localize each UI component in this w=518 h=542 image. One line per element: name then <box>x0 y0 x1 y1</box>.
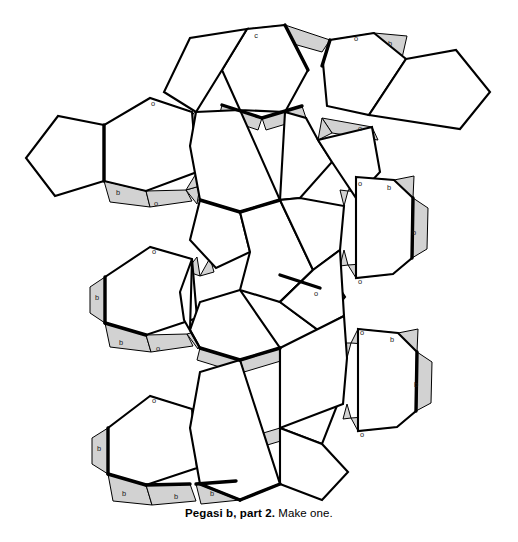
papercraft-net-diagram: c o b o o b o o b b o o b b o o b b o o … <box>0 0 518 515</box>
tab-label-right-low-b2: b <box>414 380 418 389</box>
tab-label-left-upper-b: b <box>116 188 120 197</box>
tab-label-bottom-b3: b <box>210 489 214 498</box>
tab-label-bottom-b1: b <box>122 489 126 498</box>
tab-label-right-mid-b: b <box>387 183 391 192</box>
tab-label-top-right-b: b <box>388 39 392 48</box>
tab-label-center-o: o <box>314 289 318 298</box>
hex-center-lowest <box>190 360 280 500</box>
caption-title: Pegasi b, part 2. <box>185 507 275 519</box>
figure-caption: Pegasi b, part 2. Make one. <box>0 506 518 542</box>
tab-right-low-cornerwedge2 <box>343 404 351 419</box>
figure-root: c o b o o b o o b b o o b b o o b b o o … <box>0 0 518 542</box>
tab-label-left-upper-o2: o <box>154 199 158 208</box>
tab-label-right-mid-b2: b <box>412 228 416 237</box>
tab-label-right-low-b: b <box>390 335 394 344</box>
tab-label-left-low-b: b <box>97 444 101 453</box>
tab-label-left-mid-b2: b <box>119 338 123 347</box>
tab-label-bottom-b2: b <box>174 492 178 501</box>
tab-label-left-mid-b: b <box>95 293 99 302</box>
tab-label-right-mid-o2: o <box>358 277 362 286</box>
caption-rest: Make one. <box>275 507 333 519</box>
tab-label-left-mid-o2: o <box>156 344 160 353</box>
tab-label-left-mid-o: o <box>152 247 156 256</box>
tab-right-mid-cornerwedge1 <box>340 190 348 206</box>
seam-14 <box>146 484 190 485</box>
pent-far-left <box>26 116 104 196</box>
tab-label-left-low-o: o <box>152 396 156 405</box>
hex-right-mid <box>356 177 413 278</box>
link-face-center-right2 <box>280 316 347 428</box>
caption-line: Pegasi b, part 2. Make one. <box>0 506 518 520</box>
tab-label-top-right-o: o <box>354 34 358 43</box>
tab-label-right-low-o: o <box>360 328 364 337</box>
tab-label-right-mid-o: o <box>358 179 362 188</box>
tab-label-right-upper-o: o <box>358 124 362 133</box>
hex-left-low <box>108 396 197 485</box>
hex-left-upper <box>104 98 197 191</box>
tab-label-left-upper-o: o <box>151 99 155 108</box>
polygon-faces-layer <box>26 25 490 500</box>
tab-bottom-b2 <box>146 484 196 505</box>
tab-label-right-low-o2: o <box>360 430 364 439</box>
hex-right-low <box>358 329 417 431</box>
tab-left-mid-o2 <box>146 334 193 352</box>
tab-left-upper-o2 <box>146 190 192 207</box>
tab-label-top-c: c <box>254 31 258 40</box>
